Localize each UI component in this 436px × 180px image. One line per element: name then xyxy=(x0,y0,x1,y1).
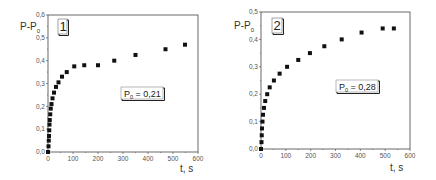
y-tick-label: 0,1 xyxy=(36,125,45,132)
annotation-box-1: P0 = 0,21 xyxy=(121,87,165,101)
x-tick-label: 100 xyxy=(68,155,79,162)
data-point xyxy=(51,96,55,100)
data-point xyxy=(296,58,300,62)
y-tick-label: 0,0 xyxy=(36,148,45,155)
panel-label-1: 1 xyxy=(60,19,67,34)
data-point xyxy=(340,37,344,41)
x-tick-label: 500 xyxy=(168,155,179,162)
y-tick-label: 0,6 xyxy=(36,11,45,18)
data-point xyxy=(96,63,100,67)
data-point xyxy=(82,63,86,67)
chart-figure: 0,00,10,20,30,40,50,6 010020030040050060… xyxy=(0,0,436,180)
panel-label-box-2: 2 xyxy=(272,18,284,35)
data-point xyxy=(322,44,326,48)
data-point xyxy=(47,134,51,138)
data-point xyxy=(260,126,264,130)
data-point xyxy=(49,107,53,111)
y-tick-label: 0,5 xyxy=(249,8,258,15)
data-point xyxy=(48,118,52,122)
y-tick-label: 0,2 xyxy=(249,90,258,97)
y-axis-label-1: P-P0 xyxy=(20,21,41,34)
x-tick-label: 200 xyxy=(93,155,104,162)
data-point xyxy=(278,72,282,76)
x-tick-label: 400 xyxy=(143,155,154,162)
chart-panel-1: 0,00,10,20,30,40,50,6 010020030040050060… xyxy=(20,11,204,174)
plot-frame-1 xyxy=(48,15,198,152)
data-point xyxy=(381,26,385,30)
data-point xyxy=(65,70,69,74)
x-tick-label: 600 xyxy=(193,155,204,162)
y-tick-label: 0,5 xyxy=(36,34,45,41)
y-tick-label: 0,4 xyxy=(249,36,258,43)
y-tick-label: 0,1 xyxy=(249,118,258,125)
data-point xyxy=(263,99,267,103)
data-point xyxy=(47,128,51,132)
data-point xyxy=(308,51,312,55)
data-point xyxy=(261,113,265,117)
data-point xyxy=(47,139,51,143)
x-tick-label: 200 xyxy=(305,152,316,159)
data-point xyxy=(164,47,168,51)
y-tick-label: 0,3 xyxy=(36,80,45,87)
data-point xyxy=(72,64,76,68)
y-tick-label: 0,3 xyxy=(249,63,258,70)
data-point xyxy=(262,106,266,110)
annotation-text-1: P0 = 0,21 xyxy=(124,89,161,100)
x-tick-label: 100 xyxy=(280,152,291,159)
x-tick-label: 0 xyxy=(46,155,50,162)
y-tick-label: 0,2 xyxy=(36,103,45,110)
data-point xyxy=(134,53,138,57)
x-tick-label: 600 xyxy=(405,152,416,159)
data-series-1 xyxy=(46,43,187,154)
data-point xyxy=(285,65,289,69)
panel-label-box-1: 1 xyxy=(58,19,69,36)
data-point xyxy=(265,92,269,96)
data-point xyxy=(54,85,58,89)
data-point xyxy=(183,43,187,47)
data-point xyxy=(50,102,54,106)
data-point xyxy=(360,31,364,35)
data-point xyxy=(268,85,272,89)
x-axis-label-1: t, s xyxy=(180,163,193,174)
y-tick-label: 0,0 xyxy=(249,145,258,152)
annotation-text-2: P0 = 0,28 xyxy=(339,82,376,93)
data-point xyxy=(60,75,64,79)
data-point xyxy=(46,150,50,154)
panel-label-2: 2 xyxy=(274,18,281,33)
x-tick-label: 300 xyxy=(118,155,129,162)
y-axis-label-2: P-P0 xyxy=(234,20,255,33)
chart-panel-2: 0,00,10,20,30,40,5 0100200300400500600 P… xyxy=(234,8,416,173)
y-tick-label: 0,4 xyxy=(36,57,45,64)
x-axis-label-2: t, s xyxy=(390,162,403,173)
data-point xyxy=(57,80,61,84)
x-tick-label: 500 xyxy=(380,152,391,159)
x-tick-label: 400 xyxy=(355,152,366,159)
annotation-box-2: P0 = 0,28 xyxy=(336,80,380,94)
data-point xyxy=(260,120,264,124)
data-point xyxy=(112,59,116,63)
x-axis-ticks-1: 0100200300400500600 xyxy=(46,152,204,162)
data-point xyxy=(260,133,264,137)
data-point xyxy=(47,144,51,148)
data-point xyxy=(48,112,52,116)
data-point xyxy=(392,26,396,30)
x-tick-label: 300 xyxy=(330,152,341,159)
data-point xyxy=(48,123,52,127)
data-point xyxy=(259,140,263,144)
x-tick-label: 0 xyxy=(259,152,263,159)
data-point xyxy=(52,91,56,95)
x-axis-ticks-2: 0100200300400500600 xyxy=(259,149,416,159)
data-point xyxy=(259,147,263,151)
data-point xyxy=(272,79,276,83)
